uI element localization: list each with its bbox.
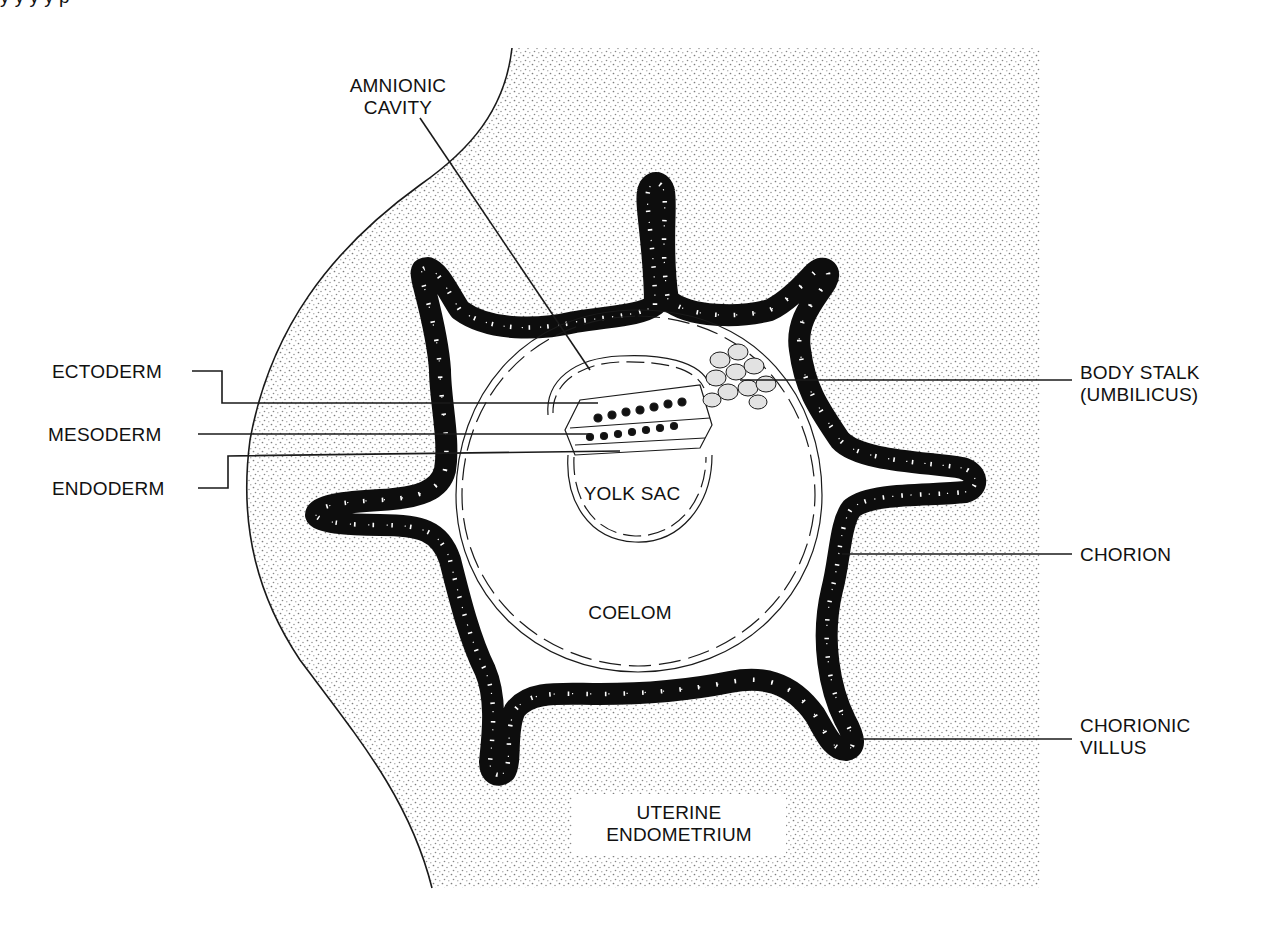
label-chorion: CHORION xyxy=(1080,544,1171,565)
label-yolk-sac: YOLK SAC xyxy=(584,483,681,504)
label-chorionic-villus-line1: CHORIONIC xyxy=(1080,715,1191,736)
label-body-stalk-line1: BODY STALK xyxy=(1080,362,1200,383)
label-coelom: COELOM xyxy=(588,602,672,623)
label-mesoderm: MESODERM xyxy=(48,424,162,445)
label-body-stalk-line2: (UMBILICUS) xyxy=(1080,384,1198,405)
label-uterine-endometrium-line2: ENDOMETRIUM xyxy=(606,824,752,845)
label-ectoderm: ECTODERM xyxy=(52,361,162,382)
embryo-diagram: AMNIONIC CAVITY ECTODERM MESODERM ENDODE… xyxy=(0,0,1264,926)
label-chorionic-villus-line2: VILLUS xyxy=(1080,737,1147,758)
label-uterine-endometrium-line1: UTERINE xyxy=(637,802,722,823)
label-amnionic-cavity-line2: CAVITY xyxy=(364,97,433,118)
label-amnionic-cavity-line1: AMNIONIC xyxy=(350,75,447,96)
label-endoderm: ENDODERM xyxy=(52,478,164,499)
